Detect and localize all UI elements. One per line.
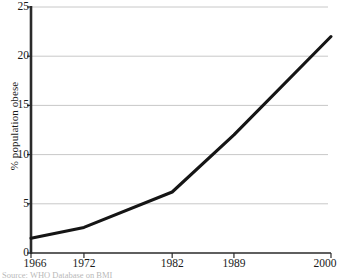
source-caption: Source: WHO Database on BMI	[0, 272, 350, 279]
x-tick-label: 2000	[302, 258, 348, 270]
y-tick-label: 25	[3, 1, 29, 13]
source-caption-text: Source: WHO Database on BMI	[2, 272, 112, 279]
x-tick-label: 1972	[61, 258, 107, 270]
y-tick-labels: 0510152025	[0, 0, 29, 279]
y-tick-label: 5	[3, 198, 29, 210]
x-tick-label: 1982	[149, 258, 195, 270]
plot-area	[0, 0, 350, 279]
y-tick-label: 10	[3, 149, 29, 161]
y-tick-label: 20	[3, 50, 29, 62]
gridlines	[31, 7, 328, 204]
data-series-line	[31, 37, 331, 239]
chart-figure: % population obese 0510152025 1966197219…	[0, 0, 350, 279]
x-tick-label: 1966	[12, 258, 58, 270]
y-tick-label: 15	[3, 99, 29, 111]
x-tick-label: 1989	[211, 258, 257, 270]
